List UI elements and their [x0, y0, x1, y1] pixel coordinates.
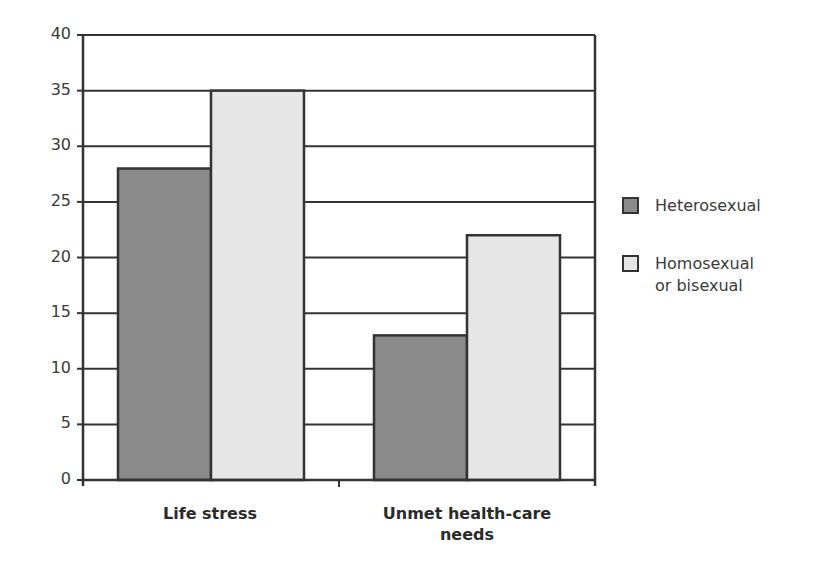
- category-label-unmet-health-care-needs: Unmet health-care needs: [357, 503, 577, 545]
- category-label-life-stress: Life stress: [130, 503, 290, 524]
- bars: [118, 91, 560, 480]
- bar-homosexual-or-bisexual-unmet-health-care-needs: [467, 235, 560, 480]
- legend-item-heterosexual: Heterosexual: [622, 195, 795, 217]
- y-tick-label: 10: [31, 360, 71, 376]
- y-tick-label: 20: [31, 249, 71, 265]
- y-tick-label: 15: [31, 304, 71, 320]
- bar-heterosexual-life-stress: [118, 169, 211, 481]
- legend-item-homosexual-bisexual: Homosexual or bisexual: [622, 253, 795, 297]
- bar-heterosexual-unmet-health-care-needs: [374, 335, 467, 480]
- y-tick-label: 5: [31, 415, 71, 431]
- y-tick-label: 25: [31, 193, 71, 209]
- bar-chart: 0510152025303540 Life stress Unmet healt…: [0, 0, 817, 567]
- legend-label: Heterosexual: [655, 195, 795, 217]
- bar-homosexual-or-bisexual-life-stress: [211, 91, 304, 480]
- y-tick-label: 40: [31, 26, 71, 42]
- y-tick-label: 0: [31, 471, 71, 487]
- y-tick-label: 30: [31, 137, 71, 153]
- legend-label: Homosexual or bisexual: [655, 253, 795, 297]
- legend-swatch-homosexual-bisexual: [622, 255, 639, 272]
- y-tick-label: 35: [31, 82, 71, 98]
- legend-swatch-heterosexual: [622, 197, 639, 214]
